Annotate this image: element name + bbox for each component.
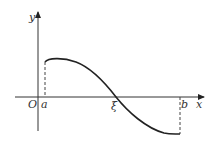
- function-curve: [45, 59, 180, 134]
- a-label: a: [41, 98, 48, 111]
- y-axis-label: y: [28, 11, 36, 24]
- function-graph: y O a ξ b x: [0, 0, 213, 156]
- xi-label: ξ: [111, 100, 118, 113]
- b-label: b: [181, 98, 188, 111]
- origin-label: O: [28, 98, 37, 111]
- x-axis-label: x: [196, 98, 203, 111]
